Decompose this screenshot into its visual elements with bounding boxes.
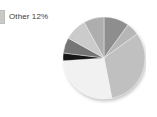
pie-chart-graphic[interactable] <box>62 12 146 108</box>
pie-slice[interactable] <box>63 58 112 99</box>
legend-swatch-icon <box>0 10 5 24</box>
chart-legend: Other 12% <box>0 10 48 24</box>
pie-svg <box>62 12 146 108</box>
legend-item-label: Other 12% <box>9 12 48 22</box>
legend-item-other[interactable]: Other 12% <box>0 10 48 24</box>
pie-slice-group <box>63 17 145 99</box>
pie-chart-widget: Other 12% <box>0 0 157 117</box>
